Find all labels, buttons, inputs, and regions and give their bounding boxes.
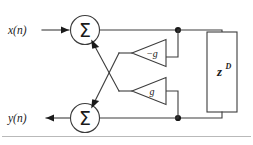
top-summer-sigma: Σ bbox=[79, 19, 91, 41]
lower-gain-input-wire bbox=[166, 91, 178, 118]
output-label: y(n) bbox=[7, 112, 27, 125]
delay-block-base-label: z bbox=[216, 64, 223, 79]
gain-label-g: g bbox=[150, 86, 155, 97]
delay-output-wire bbox=[178, 112, 222, 118]
lower-gain-diagonal-wire bbox=[93, 42, 120, 91]
diagram-canvas: Σ z D Σ bbox=[0, 0, 253, 145]
signal-flow-diagram: Σ z D Σ bbox=[0, 0, 253, 145]
delay-block-exponent-label: D bbox=[225, 62, 232, 71]
input-arrowhead-icon bbox=[61, 26, 69, 33]
bottom-summer-sigma: Σ bbox=[79, 107, 91, 129]
output-arrowhead-icon bbox=[46, 114, 54, 121]
gain-label-negative-g: −g bbox=[146, 48, 158, 59]
input-label: x(n) bbox=[7, 24, 27, 37]
upper-gain-diagonal-wire bbox=[93, 53, 120, 106]
upper-gain-input-wire bbox=[166, 30, 178, 57]
